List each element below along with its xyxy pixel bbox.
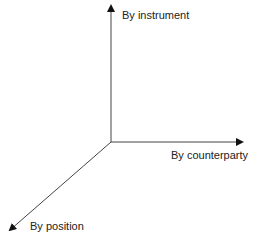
instrument-label: By instrument [122, 9, 189, 21]
axes-diagram [0, 0, 253, 241]
position-axis [10, 142, 111, 230]
position-label: By position [30, 220, 84, 232]
counterparty-label: By counterparty [171, 149, 248, 161]
